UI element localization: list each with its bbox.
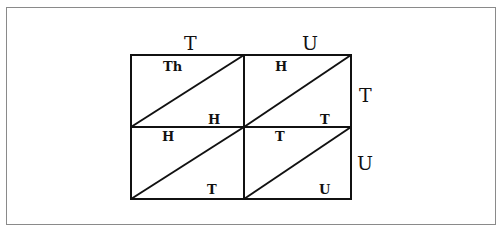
row-header-1: T (359, 84, 372, 106)
cell-r2c1-bottom: T (207, 182, 217, 197)
cell-r1c1-top: Th (163, 59, 183, 74)
row-header-2: U (357, 152, 373, 174)
cell-r2c1-top: H (162, 129, 174, 144)
diagonal-r2c1 (131, 127, 244, 199)
diagonal-r1c1 (131, 55, 244, 127)
column-header-2: U (302, 32, 318, 54)
cell-r1c1-bottom: H (208, 112, 220, 127)
diagonal-r1c2 (244, 55, 351, 127)
diagonal-r2c2 (244, 127, 351, 199)
lattice-diagram: T U T U Th H H T H T T U (0, 0, 504, 233)
cell-r2c2-bottom: U (319, 182, 331, 197)
cell-r1c2-bottom: T (320, 112, 330, 127)
column-header-1: T (184, 32, 197, 54)
cell-r1c2-top: H (275, 59, 287, 74)
cell-r2c2-top: T (275, 129, 285, 144)
